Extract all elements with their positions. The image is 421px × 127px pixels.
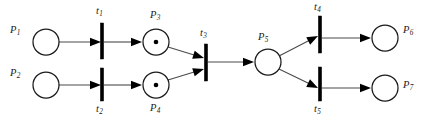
- transition-label-subscript: 3: [203, 32, 207, 40]
- transition-label-subscript: 1: [99, 10, 103, 18]
- place-label-subscript: 5: [265, 36, 269, 44]
- place-label-P5: P5: [258, 32, 268, 43]
- arc-arrowhead: [360, 34, 371, 43]
- place-label-base: P: [258, 31, 264, 42]
- arc-P5-to-t5: [279, 69, 318, 88]
- place-P7[interactable]: [372, 75, 398, 101]
- place-label-P1: P1: [10, 25, 20, 36]
- transition-t5[interactable]: [318, 67, 321, 101]
- transition-t2[interactable]: [100, 68, 103, 101]
- transition-t4[interactable]: [318, 16, 321, 53]
- arc-line: [168, 47, 195, 55]
- arc-arrowhead: [131, 81, 142, 90]
- place-P4[interactable]: [143, 72, 169, 98]
- place-label-base: P: [150, 102, 156, 113]
- token-P3: [154, 40, 159, 45]
- arc-t4-to-P6: [322, 34, 371, 43]
- arc-arrowhead: [90, 38, 101, 47]
- arc-t5-to-P7: [322, 84, 371, 93]
- arc-arrowhead: [360, 84, 371, 93]
- arc-arrowhead: [192, 68, 204, 76]
- arc-line: [279, 40, 310, 56]
- place-circle-P6[interactable]: [372, 25, 398, 51]
- place-label-P7: P7: [403, 80, 413, 91]
- place-circle-P7[interactable]: [372, 75, 398, 101]
- arc-t3-to-P5: [208, 58, 254, 67]
- place-P1[interactable]: [33, 29, 59, 55]
- arc-t1-to-P3: [104, 38, 142, 47]
- place-label-subscript: 3: [157, 14, 161, 22]
- place-label-subscript: 2: [17, 72, 21, 80]
- place-circle-P5[interactable]: [255, 49, 281, 75]
- arcs-layer: [59, 34, 371, 93]
- place-label-P6: P6: [403, 25, 413, 36]
- arc-arrowhead: [192, 51, 204, 59]
- arc-P3-to-t3: [168, 47, 204, 59]
- place-P3[interactable]: [143, 29, 169, 55]
- arc-t2-to-P4: [104, 81, 142, 90]
- arc-P4-to-t3: [168, 68, 204, 80]
- place-label-P2: P2: [10, 68, 20, 79]
- arc-arrowhead: [131, 38, 142, 47]
- transition-bar-t4[interactable]: [318, 16, 321, 53]
- place-P5[interactable]: [255, 49, 281, 75]
- arc-P1-to-t1: [59, 38, 101, 47]
- transition-label-t2: t2: [96, 104, 103, 115]
- place-label-subscript: 4: [157, 107, 161, 115]
- place-label-base: P: [403, 79, 409, 90]
- petri-net-canvas: [0, 0, 421, 127]
- transition-label-subscript: 2: [99, 108, 103, 116]
- transition-label-subscript: 5: [317, 108, 321, 116]
- transition-t1[interactable]: [100, 23, 103, 59]
- transition-label-subscript: 4: [317, 6, 321, 14]
- place-label-base: P: [10, 67, 16, 78]
- place-P2[interactable]: [33, 72, 59, 98]
- transition-bar-t5[interactable]: [318, 67, 321, 101]
- transition-bar-t2[interactable]: [100, 68, 103, 101]
- place-label-base: P: [150, 9, 156, 20]
- transition-label-t1: t1: [96, 6, 103, 17]
- arc-P2-to-t2: [59, 81, 101, 90]
- place-label-subscript: 6: [410, 29, 414, 37]
- place-label-base: P: [403, 24, 409, 35]
- place-circle-P2[interactable]: [33, 72, 59, 98]
- transition-t3[interactable]: [204, 44, 207, 81]
- arc-arrowhead: [306, 79, 318, 88]
- place-label-subscript: 7: [410, 84, 414, 92]
- place-label-P4: P4: [150, 103, 160, 114]
- transition-label-t3: t3: [200, 28, 207, 39]
- transition-bar-t1[interactable]: [100, 23, 103, 59]
- place-label-subscript: 1: [17, 29, 21, 37]
- place-label-P3: P3: [150, 10, 160, 21]
- arc-arrowhead: [90, 81, 101, 90]
- transition-bar-t3[interactable]: [204, 44, 207, 81]
- arc-P5-to-t4: [279, 36, 318, 56]
- arc-line: [279, 69, 309, 84]
- place-label-base: P: [10, 24, 16, 35]
- arc-arrowhead: [306, 36, 318, 45]
- place-circle-P1[interactable]: [33, 29, 59, 55]
- petri-net-diagram: P1P2P3P4P5P6P7t1t2t3t4t5: [0, 0, 421, 127]
- arc-line: [168, 72, 195, 80]
- transition-label-t4: t4: [314, 2, 321, 13]
- token-P4: [154, 83, 159, 88]
- transition-label-t5: t5: [314, 104, 321, 115]
- arc-arrowhead: [243, 58, 254, 67]
- places-layer: [33, 25, 398, 101]
- place-P6[interactable]: [372, 25, 398, 51]
